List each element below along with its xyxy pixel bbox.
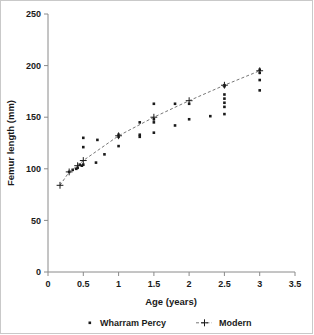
data-point-marker — [82, 137, 85, 140]
data-point-marker — [223, 113, 226, 116]
x-axis-tick-labels: 0 0.5 1 1.5 2 2.5 3 3.5 — [45, 279, 301, 289]
data-point-marker — [153, 121, 156, 124]
data-point-marker — [188, 118, 191, 121]
x-tick-marks — [48, 272, 295, 276]
legend-item-wharram-percy[interactable]: Wharram Percy — [89, 318, 167, 328]
x-tick-label: 0.5 — [77, 279, 90, 289]
legend-label: Modern — [219, 318, 252, 328]
data-point-marker — [153, 131, 156, 134]
y-tick-label: 200 — [26, 61, 41, 71]
legend-label: Wharram Percy — [100, 318, 166, 328]
legend-dot-icon — [89, 322, 92, 325]
figure-container: 0 50 100 150 200 250 0 0.5 1 1.5 2 2.5 3 — [0, 0, 314, 335]
data-point-marker — [138, 136, 141, 139]
x-tick-label: 0 — [45, 279, 50, 289]
y-tick-label: 100 — [26, 164, 41, 174]
y-tick-label: 150 — [26, 112, 41, 122]
x-tick-label: 2.5 — [218, 279, 231, 289]
data-point-marker — [174, 102, 177, 105]
data-point-marker — [153, 102, 156, 105]
legend-item-modern[interactable]: Modern — [196, 318, 252, 328]
y-tick-label: 50 — [31, 216, 41, 226]
data-point-marker — [223, 101, 226, 104]
x-tick-label: 3 — [257, 279, 262, 289]
y-tick-label: 250 — [26, 9, 41, 19]
y-tick-marks — [44, 14, 48, 272]
y-tick-label: 0 — [36, 267, 41, 277]
plot-background — [48, 14, 295, 272]
data-point-marker — [117, 145, 120, 148]
x-tick-label: 3.5 — [289, 279, 302, 289]
y-axis-title: Femur length (mm) — [5, 100, 16, 186]
data-point-marker — [103, 153, 106, 156]
x-tick-label: 1 — [116, 279, 121, 289]
data-point-marker — [96, 139, 99, 142]
data-point-marker — [258, 79, 261, 82]
y-axis-tick-labels: 0 50 100 150 200 250 — [26, 9, 41, 277]
data-point-marker — [174, 124, 177, 127]
data-point-marker — [209, 115, 212, 118]
x-tick-label: 1.5 — [148, 279, 161, 289]
x-tick-label: 2 — [187, 279, 192, 289]
data-point-marker — [82, 146, 85, 149]
data-point-marker — [223, 97, 226, 100]
data-point-marker — [138, 121, 141, 124]
data-point-marker — [223, 93, 226, 96]
x-axis-title: Age (years) — [145, 296, 197, 307]
scatter-chart: 0 50 100 150 200 250 0 0.5 1 1.5 2 2.5 3 — [0, 0, 314, 335]
data-point-marker — [258, 89, 261, 92]
chart-legend: Wharram Percy Modern — [89, 318, 252, 328]
data-point-marker — [95, 161, 98, 164]
data-point-marker — [223, 106, 226, 109]
